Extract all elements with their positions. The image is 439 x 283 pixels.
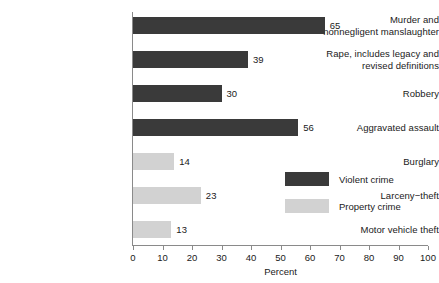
x-axis-tick xyxy=(133,246,134,250)
x-axis-title: Percent xyxy=(133,266,428,277)
x-axis-tick-label: 30 xyxy=(216,252,227,263)
x-axis-tick xyxy=(310,246,311,250)
legend-swatch-property-crime xyxy=(285,199,329,213)
x-axis-tick xyxy=(428,246,429,250)
x-axis-tick-label: 0 xyxy=(130,252,135,263)
legend-item-property-crime: Property crime xyxy=(285,199,401,213)
bar xyxy=(133,51,248,68)
bar-value-label: 65 xyxy=(330,17,341,34)
x-axis-tick xyxy=(192,246,193,250)
bar-chart: Murder andnonnegligent manslaughterRape,… xyxy=(0,0,439,283)
chart-legend: Violent crime Property crime xyxy=(285,172,401,226)
bar-value-label: 13 xyxy=(176,221,187,238)
legend-label-violent-crime: Violent crime xyxy=(339,174,394,185)
x-axis-tick-label: 10 xyxy=(157,252,168,263)
bar xyxy=(133,119,298,136)
x-axis-tick xyxy=(281,246,282,250)
legend-item-violent-crime: Violent crime xyxy=(285,172,401,186)
x-axis-tick-label: 40 xyxy=(246,252,257,263)
bar xyxy=(133,187,201,204)
x-axis-tick-label: 60 xyxy=(305,252,316,263)
bar-value-label: 30 xyxy=(227,85,238,102)
x-axis-tick xyxy=(369,246,370,250)
bar-value-label: 23 xyxy=(206,187,217,204)
bar-value-label: 56 xyxy=(303,119,314,136)
bar xyxy=(133,17,325,34)
x-axis-tick-label: 90 xyxy=(393,252,404,263)
bar xyxy=(133,221,171,238)
y-axis-line xyxy=(132,12,133,245)
x-axis-tick-label: 20 xyxy=(187,252,198,263)
x-axis-tick-label: 100 xyxy=(420,252,436,263)
bar xyxy=(133,153,174,170)
x-axis-tick xyxy=(340,246,341,250)
x-axis-tick xyxy=(222,246,223,250)
bar xyxy=(133,85,222,102)
bar-value-label: 14 xyxy=(179,153,190,170)
x-axis-tick xyxy=(163,246,164,250)
legend-swatch-violent-crime xyxy=(285,172,329,186)
x-axis-tick-label: 80 xyxy=(364,252,375,263)
x-axis-tick xyxy=(251,246,252,250)
x-axis-tick-label: 70 xyxy=(334,252,345,263)
legend-label-property-crime: Property crime xyxy=(339,201,401,212)
x-axis-tick xyxy=(399,246,400,250)
bar-value-label: 39 xyxy=(253,51,264,68)
x-axis-tick-label: 50 xyxy=(275,252,286,263)
